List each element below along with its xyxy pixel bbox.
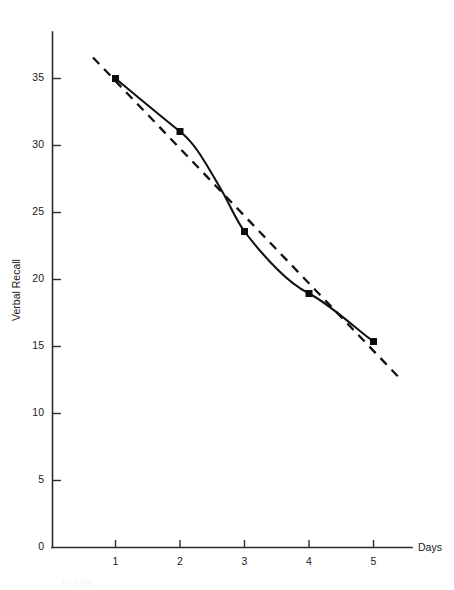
y-tick-label-5: 5 [38,473,44,485]
observed-line-solid [116,79,374,342]
x-tick-label-1: 1 [113,555,119,567]
data-point-day-1 [112,75,119,82]
data-point-day-5 [370,338,377,345]
data-point-markers [112,75,377,345]
axis-group [52,32,412,548]
y-tick-label-25: 25 [32,205,44,217]
y-tick-labels: 35 30 25 20 15 10 5 0 [32,71,44,552]
data-point-day-2 [177,128,184,135]
trend-line-dashed [93,58,399,378]
data-point-day-3 [241,228,248,235]
x-tick-label-4: 4 [306,555,312,567]
x-tick-labels: 1 2 3 4 5 [113,555,377,567]
figure-root: 35 30 25 20 15 10 5 0 1 2 3 4 5 Days Ver… [0,0,454,590]
x-tick-label-5: 5 [371,555,377,567]
x-tick-label-3: 3 [242,555,248,567]
x-axis-title: Days [418,541,442,553]
y-tick-label-10: 10 [32,406,44,418]
y-tick-label-0: 0 [38,540,44,552]
verbal-recall-line-chart: 35 30 25 20 15 10 5 0 1 2 3 4 5 Days Ver… [0,0,454,590]
y-tick-label-15: 15 [32,339,44,351]
y-tick-label-35: 35 [32,71,44,83]
y-tick-label-30: 30 [32,138,44,150]
figure-caption-partial: FIGURE [62,578,94,587]
x-tick-label-2: 2 [177,555,183,567]
data-point-day-4 [306,290,313,297]
x-tick-group [116,540,374,547]
y-tick-group [52,79,61,481]
y-tick-label-20: 20 [32,272,44,284]
y-axis-title: Verbal Recall [10,259,22,321]
